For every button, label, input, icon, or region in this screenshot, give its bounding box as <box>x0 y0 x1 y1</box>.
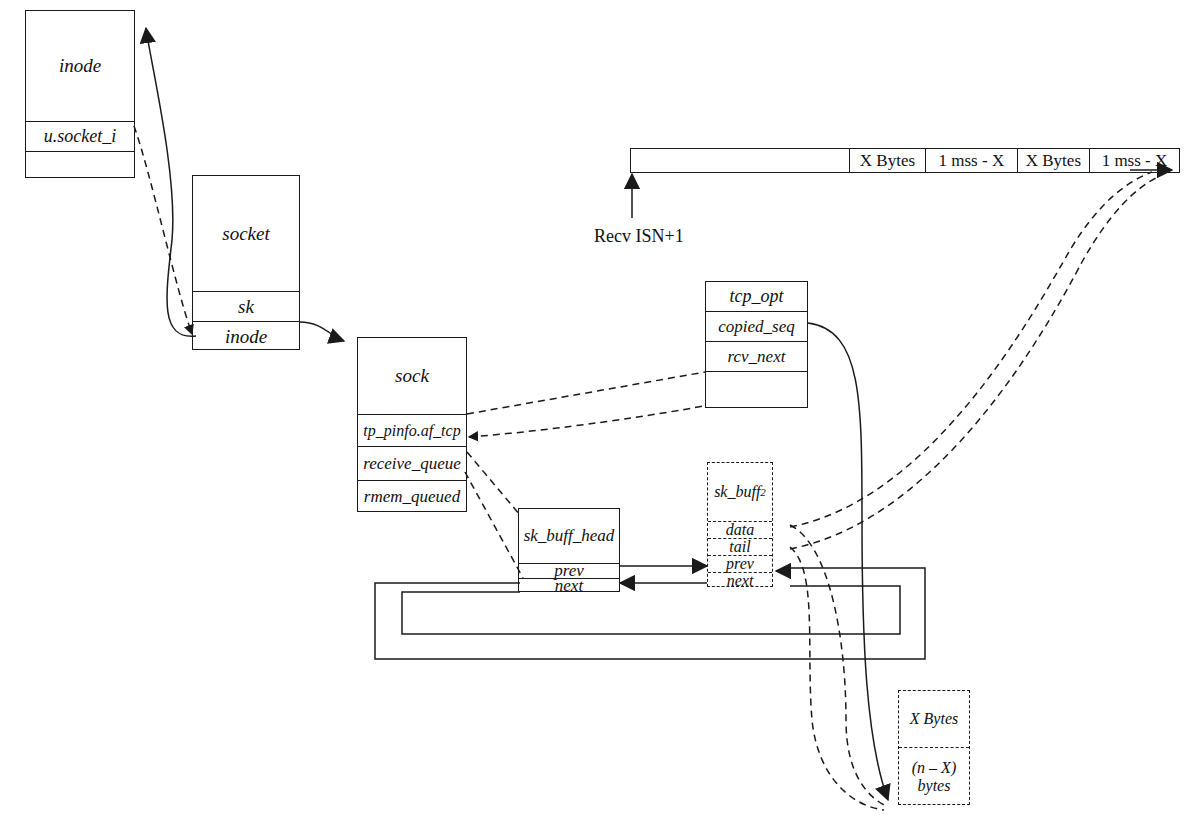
connector-sock-to-tcpopt <box>467 372 705 437</box>
struct-sk-buff-2-title-text: sk_buff <box>714 483 760 501</box>
struct-tcp-opt-title: tcp_opt <box>706 282 807 311</box>
struct-sock-field-rmem-queued: rmem_queued <box>358 480 466 513</box>
struct-sk-buff-2-field-data: data <box>708 521 772 538</box>
struct-sock-field-receive-queue: receive_queue <box>358 446 466 480</box>
struct-socket-title: socket <box>193 176 299 291</box>
data-block-segment-n-minus-x: (n – X) bytes <box>899 747 969 806</box>
connector-socket-inode-to-inode <box>146 28 196 336</box>
struct-tcp-opt-field-copied-seq: copied_seq <box>706 311 807 341</box>
diagram-canvas: inode u.socket_i socket sk inode sock tp… <box>0 0 1201 834</box>
recv-isn-label: Recv ISN+1 <box>594 226 684 247</box>
seqbar-segment-x-bytes-2: X Bytes <box>1017 149 1089 172</box>
struct-sk-buff-2-field-tail: tail <box>708 538 772 555</box>
connector-socket-sk-to-sock <box>300 322 344 341</box>
struct-sock: sock tp_pinfo.af_tcp receive_queue rmem_… <box>357 337 467 512</box>
connector-rmemqueued-to-list <box>465 472 523 578</box>
struct-inode-field-empty <box>26 151 134 179</box>
struct-sk-buff-2-field-next: next <box>708 572 772 588</box>
data-block: X Bytes (n – X) bytes <box>898 690 970 805</box>
struct-sk-buff-head-field-next: next <box>519 578 619 593</box>
seqbar-segment-1mss-x-2: 1 mss - X <box>1089 149 1179 172</box>
struct-socket-field-inode: inode <box>193 321 299 351</box>
struct-sk-buff-head: sk_buff_head prev next <box>518 508 620 592</box>
struct-inode-field-u-socket-i: u.socket_i <box>26 121 134 151</box>
connector-receivequeue-to-skbuffhead <box>467 452 520 515</box>
list-loop-outer <box>375 568 925 659</box>
data-block-segment-n-minus-x-text: (n – X) bytes <box>912 759 956 796</box>
sequence-number-bar: X Bytes 1 mss - X X Bytes 1 mss - X <box>630 148 1180 173</box>
struct-tcp-opt-field-rcv-next: rcv_next <box>706 341 807 371</box>
struct-tcp-opt: tcp_opt copied_seq rcv_next <box>705 281 808 408</box>
struct-tcp-opt-field-empty <box>706 371 807 409</box>
data-block-segment-x-bytes: X Bytes <box>899 691 969 747</box>
struct-sk-buff-2: sk_buff2 data tail prev next <box>707 462 773 587</box>
struct-inode-title: inode <box>26 11 134 121</box>
struct-inode: inode u.socket_i <box>25 10 135 178</box>
connector-layer <box>0 0 1201 834</box>
connector-skbuff2-to-seqbar <box>790 172 1156 549</box>
struct-sock-field-tp-pinfo: tp_pinfo.af_tcp <box>358 414 466 446</box>
seqbar-segment-x-bytes-1: X Bytes <box>849 149 925 172</box>
struct-sock-title: sock <box>358 338 466 414</box>
list-loop-inner <box>402 586 900 634</box>
struct-sk-buff-2-field-prev: prev <box>708 555 772 572</box>
struct-sk-buff-head-title: sk_buff_head <box>519 509 619 563</box>
struct-sk-buff-2-title: sk_buff2 <box>708 463 772 521</box>
struct-socket-field-sk: sk <box>193 291 299 321</box>
connector-inode-usocketi-to-socket <box>134 126 192 334</box>
seqbar-segment-0 <box>631 149 849 172</box>
struct-socket: socket sk inode <box>192 175 300 350</box>
struct-sk-buff-2-title-subscript: 2 <box>760 486 766 498</box>
seqbar-segment-1mss-x-1: 1 mss - X <box>925 149 1017 172</box>
